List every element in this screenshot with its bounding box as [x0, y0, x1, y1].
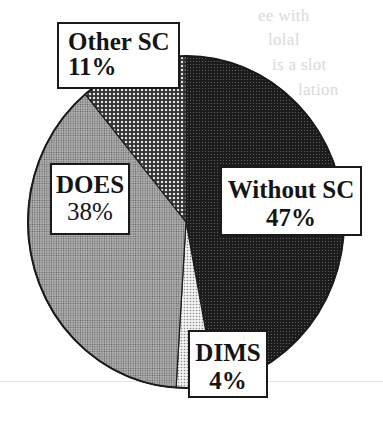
label-does-name: DOES — [52, 172, 128, 197]
label-dims-pct: 4% — [190, 368, 266, 393]
label-other-sc-name: Other SC — [68, 29, 178, 54]
label-other-sc-pct: 11% — [68, 54, 178, 79]
label-does: DOES 38% — [50, 163, 130, 235]
label-dims-name: DIMS — [190, 340, 266, 365]
label-without-sc-pct: 47% — [222, 205, 360, 230]
label-without-sc: Without SC 47% — [220, 166, 362, 236]
label-dims: DIMS 4% — [188, 330, 268, 398]
label-does-pct: 38% — [52, 199, 128, 224]
label-without-sc-name: Without SC — [222, 177, 360, 202]
label-other-sc: Other SC 11% — [57, 22, 180, 89]
